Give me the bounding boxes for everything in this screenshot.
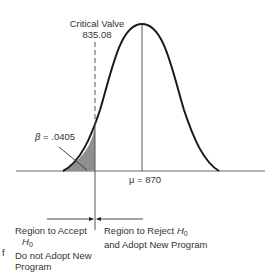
beta-value: = .0405 bbox=[40, 131, 75, 142]
accept-arrowhead-icon bbox=[89, 217, 94, 221]
accept-h-sub: 0 bbox=[29, 241, 33, 248]
reject-text: Region to Reject bbox=[104, 225, 177, 236]
normal-curve bbox=[63, 24, 219, 171]
stray-text: f bbox=[2, 247, 5, 258]
critical-value-text: 835.08 bbox=[62, 29, 132, 40]
reject-line1: Region to Reject H0 bbox=[104, 225, 208, 239]
accept-line1: Region to Accept bbox=[15, 225, 92, 236]
reject-line2: and Adopt New Program bbox=[104, 239, 208, 250]
reject-arrowhead-icon bbox=[96, 217, 101, 221]
reject-h-sub: 0 bbox=[184, 230, 188, 237]
accept-h: H bbox=[22, 236, 29, 247]
beta-label: β = .0405 bbox=[35, 131, 75, 142]
accept-h0: H0 bbox=[15, 236, 92, 250]
accept-region-label: Region to Accept H0 Do not Adopt New Pro… bbox=[15, 225, 92, 272]
reject-region-label: Region to Reject H0 and Adopt New Progra… bbox=[104, 225, 208, 250]
accept-line4: Program bbox=[15, 261, 92, 272]
critical-value-label: Critical Valve 835.08 bbox=[62, 18, 132, 40]
accept-line3: Do not Adopt New bbox=[15, 250, 92, 261]
critical-label-text: Critical Valve bbox=[62, 18, 132, 29]
mean-label: μ = 870 bbox=[129, 174, 161, 185]
reject-h: H bbox=[177, 225, 184, 236]
